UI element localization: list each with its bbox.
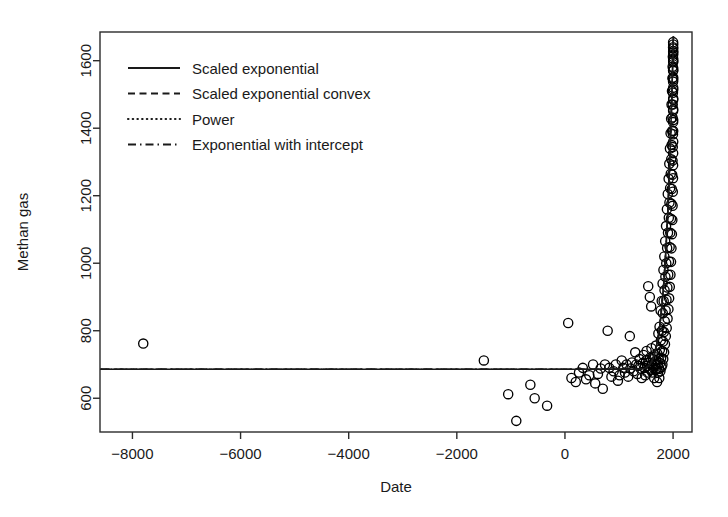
scatter-plot-canvas: −8000−6000−4000−200002000 60080010001200…: [0, 0, 728, 517]
y-tick-label: 800: [77, 318, 94, 343]
x-tick-label: 2000: [656, 445, 689, 462]
y-tick-label: 600: [77, 386, 94, 411]
x-tick-label: −8000: [111, 445, 153, 462]
y-tick-label: 1400: [77, 112, 94, 145]
y-tick-label: 1600: [77, 44, 94, 77]
legend-label: Scaled exponential convex: [192, 85, 371, 102]
legend-label: Power: [192, 111, 235, 128]
y-tick-label: 1000: [77, 247, 94, 280]
legend-label: Exponential with intercept: [192, 136, 364, 153]
x-tick-label: −6000: [219, 445, 261, 462]
x-axis-title: Date: [380, 478, 412, 495]
x-tick-label: −2000: [436, 445, 478, 462]
legend-label: Scaled exponential: [192, 60, 319, 77]
x-tick-label: 0: [561, 445, 569, 462]
x-tick-label: −4000: [328, 445, 370, 462]
chart-figure: −8000−6000−4000−200002000 60080010001200…: [0, 0, 728, 517]
y-tick-label: 1200: [77, 179, 94, 212]
figure-background: [0, 0, 728, 517]
y-axis-title: Methan gas: [14, 193, 31, 271]
